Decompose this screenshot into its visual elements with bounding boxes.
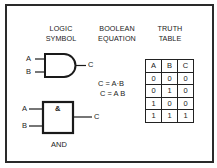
and-gate-body [45, 54, 76, 77]
table-cell: 1 [146, 110, 162, 123]
table-row: 1 1 1 [146, 110, 194, 123]
equation-dot-form: C = A·B [98, 79, 124, 88]
table-cell: 1 [162, 85, 178, 98]
input-label-a: A [22, 105, 27, 113]
header-cell-a: A [146, 60, 162, 73]
input-label-b: B [26, 68, 31, 76]
table-cell: 0 [162, 72, 178, 85]
output-label-c: C [94, 113, 99, 121]
table-row: 1 0 0 [146, 97, 194, 110]
input-label-b: B [22, 122, 27, 130]
input-label-a: A [26, 55, 31, 63]
and-gate-distinctive-symbol [35, 54, 86, 77]
table-row: 0 1 0 [146, 85, 194, 98]
table-cell: 1 [178, 110, 194, 123]
header-cell-b: B [162, 60, 178, 73]
table-cell: 0 [162, 97, 178, 110]
and-gate-rectangular-symbol [29, 102, 92, 133]
table-cell: 0 [178, 72, 194, 85]
table-cell: 0 [146, 72, 162, 85]
and-symbol-ampersand: & [55, 105, 60, 113]
header-cell-c: C [178, 60, 194, 73]
truth-table: A B C 0 0 0 0 1 0 1 0 0 1 1 1 [145, 59, 194, 123]
table-cell: 0 [146, 85, 162, 98]
table-row: 0 0 0 [146, 72, 194, 85]
equation-juxtaposition-form: C = A B [100, 89, 125, 98]
table-cell: 1 [146, 97, 162, 110]
table-cell: 1 [162, 110, 178, 123]
gate-name-and: AND [51, 140, 67, 149]
truth-table-header-row: A B C [146, 60, 194, 73]
table-cell: 0 [178, 97, 194, 110]
table-cell: 0 [178, 85, 194, 98]
output-label-c: C [88, 61, 93, 69]
